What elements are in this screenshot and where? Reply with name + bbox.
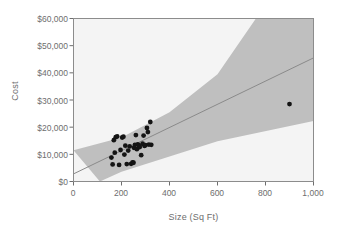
scatter-chart: Cost Size (Sq Ft) $60,000 $50,000 $40,00… xyxy=(0,0,342,234)
data-point xyxy=(109,155,114,160)
data-point xyxy=(115,134,120,139)
x-tick-label: 400 xyxy=(149,188,189,198)
data-point xyxy=(146,130,151,135)
data-point xyxy=(118,148,123,153)
data-point xyxy=(139,153,144,158)
y-tick-label: $40,000 xyxy=(14,68,68,78)
y-tick-label: $0 xyxy=(14,177,68,187)
y-tick-label: $60,000 xyxy=(14,14,68,24)
data-point xyxy=(287,102,292,107)
data-point xyxy=(121,134,126,139)
data-point xyxy=(134,133,139,138)
x-tick-label: 800 xyxy=(245,188,285,198)
x-axis-ticks xyxy=(74,182,314,186)
data-point xyxy=(122,152,127,157)
y-tick-label: $30,000 xyxy=(14,96,68,106)
data-point xyxy=(123,143,128,148)
data-point xyxy=(148,120,153,125)
x-axis-label: Size (Sq Ft) xyxy=(73,212,314,222)
data-point xyxy=(127,144,132,149)
x-tick-label: 600 xyxy=(197,188,237,198)
y-tick-label: $50,000 xyxy=(14,41,68,51)
data-point xyxy=(112,150,117,155)
data-point xyxy=(126,148,131,153)
y-axis-ticks xyxy=(70,19,74,182)
x-tick-label: 1,000 xyxy=(293,188,333,198)
y-tick-label: $10,000 xyxy=(14,150,68,160)
x-axis-tick-labels: 0 200 400 600 800 1,000 xyxy=(0,188,342,204)
data-point xyxy=(141,133,146,138)
data-point xyxy=(117,163,122,168)
x-tick-label: 0 xyxy=(53,188,93,198)
data-point xyxy=(131,160,136,165)
data-point xyxy=(145,126,150,131)
data-point xyxy=(110,162,115,167)
y-tick-label: $20,000 xyxy=(14,123,68,133)
x-tick-label: 200 xyxy=(101,188,141,198)
data-point xyxy=(149,142,154,147)
data-point xyxy=(124,162,129,167)
